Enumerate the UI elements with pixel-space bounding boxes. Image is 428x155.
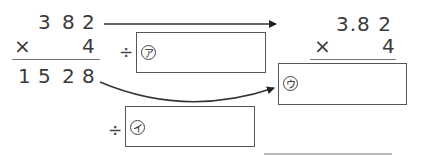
left-multiplicand-digit: 8 [62,12,75,32]
left-product-digit: 2 [62,66,75,86]
divide-sign-a: ÷ [119,44,133,61]
marker-a: ア [141,45,156,60]
marker-u: ウ [283,76,298,91]
marker-i: イ [130,120,145,135]
answer-box-a[interactable]: ア [136,32,266,73]
left-multiplicand-digit: 2 [82,12,95,32]
answer-box-u[interactable]: ウ [278,63,407,105]
answer-box-i[interactable]: イ [125,106,255,147]
left-product-digit: 1 [18,66,31,86]
curved-arrow [100,82,274,102]
left-product-digit: 8 [82,66,95,86]
left-times-sign: × [14,36,31,56]
right-multiplier: 4 [382,36,395,56]
left-multiplier: 4 [82,36,95,56]
left-multiplicand-digit: 3 [38,12,51,32]
right-product-rule [310,59,396,60]
left-product-rule [12,59,100,60]
right-multiplicand: 3.8 2 [336,14,392,34]
left-product-digit: 5 [38,66,51,86]
divide-sign-i: ÷ [108,122,122,139]
right-times-sign: × [314,36,331,56]
